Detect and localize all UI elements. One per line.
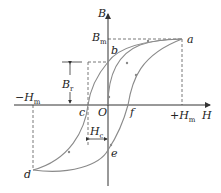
bm-label: Bm	[91, 31, 107, 46]
br-label: Br	[61, 78, 74, 93]
point-d-label: d	[24, 168, 31, 181]
h-axis-label: H	[201, 109, 212, 122]
point-e-label: e	[111, 147, 118, 160]
point-c-label: c	[79, 106, 85, 119]
hysteresis-diagram: B H O Bm Br Hc −Hm +Hm a b c d e f	[0, 0, 221, 193]
point-f-label: f	[129, 106, 136, 119]
point-b-label: b	[111, 44, 118, 57]
b-axis-label: B	[97, 7, 106, 20]
hc-label: Hc	[89, 125, 104, 140]
neg-hm-label: −Hm	[15, 91, 41, 106]
initial-magnetization-curve	[108, 39, 182, 105]
pos-hm-label: +Hm	[170, 109, 196, 124]
origin-label: O	[98, 106, 107, 119]
point-a-label: a	[187, 33, 194, 46]
